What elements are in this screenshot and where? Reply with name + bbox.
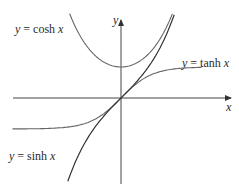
y-axis-label: y [113,14,118,26]
x-axis-label: x [226,101,231,113]
x-axis-label-text: x [226,100,231,114]
y-axis-label-text: y [113,13,118,27]
sinh-label: y = sinh x [9,150,55,162]
cosh-label-arg: x [58,22,63,36]
tanh-label-arg: x [224,56,229,70]
tanh-label: y = tanh x [182,57,229,69]
cosh-label: y = cosh x [15,23,63,35]
tanh-label-eq: = tanh [187,56,223,70]
sinh-label-eq: = sinh [14,149,50,163]
sinh-label-arg: x [50,149,55,163]
cosh-label-eq: = cosh [20,22,58,36]
